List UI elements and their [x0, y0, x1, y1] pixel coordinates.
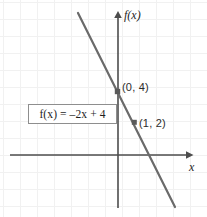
- point-label-intercept: (0, 4): [122, 81, 149, 93]
- point-label-second: (1, 2): [139, 117, 166, 129]
- y-axis-label: f(x): [124, 8, 141, 23]
- equation-box: f(x) = –2x + 4: [28, 104, 117, 124]
- point-marker-intercept: [115, 89, 120, 94]
- x-axis: [10, 151, 194, 159]
- equation-text: f(x) = –2x + 4: [39, 108, 105, 120]
- y-axis-arrowhead-icon: [114, 11, 122, 18]
- graph-figure: f(x) x (0, 4) (1, 2) f(x) = –2x + 4: [0, 0, 207, 217]
- x-axis-arrowhead-icon: [186, 151, 194, 159]
- point-marker-second: [132, 120, 137, 125]
- x-axis-label: x: [189, 160, 194, 175]
